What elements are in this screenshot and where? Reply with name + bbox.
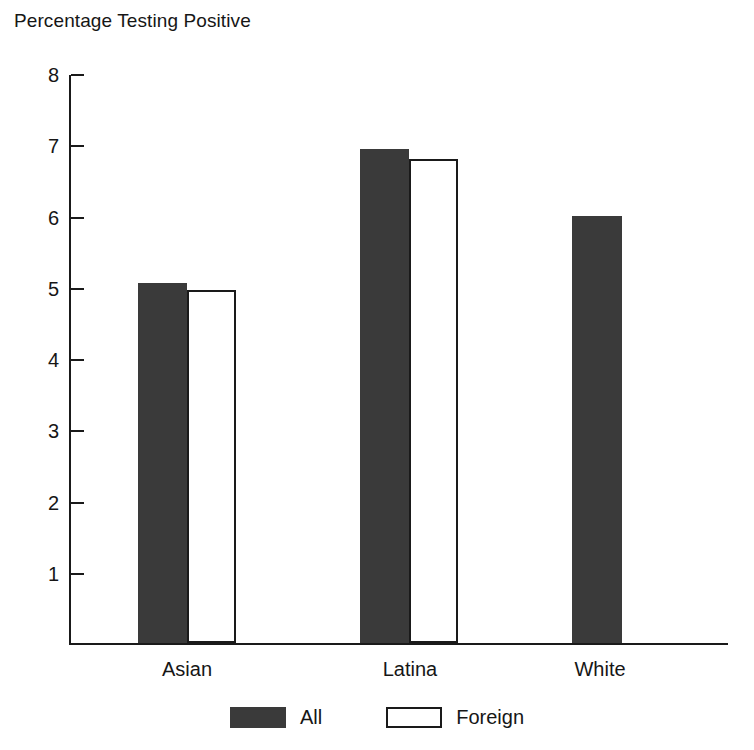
legend-swatch-all-icon: [230, 707, 286, 728]
y-axis-tick-label: 3: [48, 420, 59, 443]
bar-latina-all: [360, 149, 409, 643]
y-axis-tick-label: 8: [48, 64, 59, 87]
legend-label-all: All: [300, 706, 322, 729]
x-axis-label-white: White: [574, 658, 625, 681]
y-axis-tick-label: 5: [48, 277, 59, 300]
bar-white-all: [572, 216, 622, 644]
bar-latina-foreign: [409, 159, 458, 644]
legend-item-all: All: [230, 706, 322, 729]
y-axis-tick-label: 1: [48, 562, 59, 585]
bar-chart: Percentage Testing Positive 87654321 Asi…: [0, 0, 754, 750]
chart-title: Percentage Testing Positive: [14, 8, 251, 33]
y-axis-tick-label: 7: [48, 135, 59, 158]
bar-asian-all: [138, 283, 187, 643]
chart-legend: All Foreign: [0, 706, 754, 729]
legend-item-foreign: Foreign: [386, 706, 524, 729]
y-axis-tick: 8: [71, 74, 84, 76]
x-axis-label-asian: Asian: [162, 658, 212, 681]
y-axis-tick-label: 4: [48, 349, 59, 372]
legend-label-foreign: Foreign: [456, 706, 524, 729]
plot-area: 87654321: [69, 75, 728, 645]
y-axis-tick: 6: [71, 217, 84, 219]
y-axis-tick: 4: [71, 359, 84, 361]
y-axis-tick: 2: [71, 502, 84, 504]
y-axis-tick-label: 6: [48, 206, 59, 229]
y-axis-tick: 1: [71, 573, 84, 575]
x-axis-label-latina: Latina: [383, 658, 438, 681]
x-axis-line: [69, 643, 728, 645]
y-axis-tick-label: 2: [48, 491, 59, 514]
bar-asian-foreign: [187, 290, 236, 643]
y-axis-tick: 3: [71, 430, 84, 432]
legend-swatch-foreign-icon: [386, 707, 442, 728]
y-axis-tick: 7: [71, 145, 84, 147]
y-axis-tick: 5: [71, 288, 84, 290]
